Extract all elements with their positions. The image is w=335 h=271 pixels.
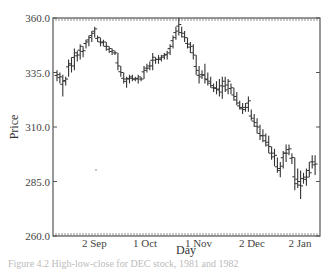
- x-tick-label: 2 Jan: [289, 237, 312, 249]
- ohlc-chart: 360.0335.0310.0285.0260.0 2 Sep1 Oct1 No…: [0, 0, 335, 271]
- y-tick-label: 335.0: [25, 67, 50, 79]
- y-axis-title: Price: [7, 115, 21, 140]
- x-axis-title: Day: [176, 243, 196, 257]
- y-tick-label: 310.0: [25, 121, 50, 133]
- plot-frame: [53, 18, 320, 236]
- x-tick-label: 2 Dec: [239, 237, 265, 249]
- x-tick-labels: 2 Sep1 Oct1 Nov2 Dec2 Jan: [82, 237, 312, 249]
- figure-caption: Figure 4.2 High-low-close for DEC stock,…: [8, 258, 335, 269]
- x-tick-label: 2 Sep: [82, 237, 107, 249]
- y-tick-labels: 360.0335.0310.0285.0260.0: [25, 12, 50, 242]
- y-tick-label: 360.0: [25, 12, 50, 24]
- x-tick-label: 1 Oct: [133, 237, 157, 249]
- ohlc-bars: [55, 18, 318, 199]
- axis-ticks: [53, 18, 320, 236]
- y-tick-label: 285.0: [25, 176, 50, 188]
- stray-dot: [95, 169, 97, 171]
- y-tick-label: 260.0: [25, 230, 50, 242]
